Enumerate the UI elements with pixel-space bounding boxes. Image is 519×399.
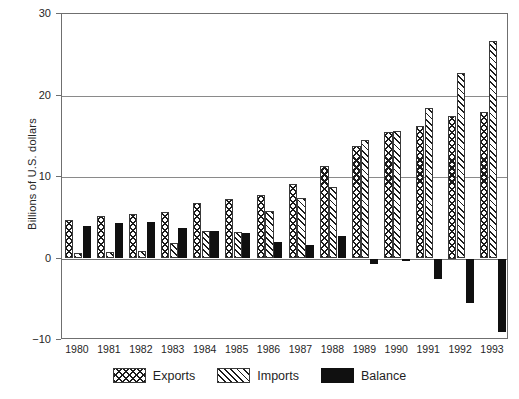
y-tick-label: 10 (39, 170, 51, 182)
legend-label: Imports (257, 369, 299, 383)
legend-label: Balance (361, 369, 406, 383)
y-tick-mark (56, 339, 61, 340)
bar-exports-1984 (193, 203, 201, 258)
bar-imports-1986 (265, 211, 273, 258)
gridline-10 (62, 177, 507, 178)
bar-exports-1981 (97, 216, 105, 258)
bar-imports-1990 (393, 131, 401, 259)
x-axis-ticks: 1980198119821983198419851986198719881989… (61, 341, 508, 359)
bar-balance-1992 (466, 259, 474, 304)
y-tick-label: 30 (39, 7, 51, 19)
bar-imports-1981 (106, 252, 114, 259)
bar-exports-1983 (161, 212, 169, 258)
bar-imports-1987 (297, 198, 305, 258)
y-tick-label: 0 (45, 252, 51, 264)
legend-swatch-exports-icon (113, 368, 146, 383)
bar-exports-1990 (384, 132, 392, 258)
legend-item-exports[interactable]: Exports (113, 368, 195, 383)
bar-imports-1993 (489, 41, 497, 259)
bar-exports-1980 (65, 220, 73, 258)
legend-swatch-balance-icon (321, 368, 354, 383)
bar-imports-1988 (329, 187, 337, 259)
bar-imports-1989 (361, 140, 369, 258)
bar-exports-1988 (320, 166, 328, 259)
bar-balance-1982 (147, 222, 155, 259)
x-tick-label-1985: 1985 (225, 343, 248, 355)
x-tick-label-1983: 1983 (161, 343, 184, 355)
bar-balance-1984 (210, 231, 218, 259)
bar-imports-1980 (74, 253, 82, 259)
bar-exports-1986 (257, 195, 265, 259)
bar-imports-1985 (234, 232, 242, 258)
x-tick-label-1988: 1988 (321, 343, 344, 355)
bar-exports-1989 (352, 146, 360, 258)
x-tick-label-1986: 1986 (257, 343, 280, 355)
legend-swatch-imports-icon (217, 368, 250, 383)
bar-imports-1991 (425, 108, 433, 259)
bar-balance-1990 (402, 259, 410, 261)
x-tick-label-1993: 1993 (480, 343, 503, 355)
y-tick-label: −10 (32, 333, 51, 345)
legend-label: Exports (153, 369, 195, 383)
bar-imports-1982 (138, 251, 146, 258)
y-axis-ticks: −100102030 (0, 0, 56, 399)
bar-balance-1985 (242, 233, 250, 258)
bar-balance-1986 (274, 242, 282, 258)
legend-item-balance[interactable]: Balance (321, 368, 406, 383)
x-tick-label-1991: 1991 (416, 343, 439, 355)
bar-balance-1991 (434, 259, 442, 279)
x-tick-label-1981: 1981 (97, 343, 120, 355)
bar-balance-1988 (338, 236, 346, 259)
x-tick-label-1989: 1989 (353, 343, 376, 355)
bar-exports-1992 (448, 116, 456, 259)
chart-container: Billions of U.S. dollars −100102030 1980… (0, 0, 519, 399)
bar-balance-1981 (115, 223, 123, 259)
bar-balance-1989 (370, 259, 378, 265)
x-tick-label-1992: 1992 (448, 343, 471, 355)
bar-exports-1985 (225, 199, 233, 258)
x-tick-label-1982: 1982 (129, 343, 152, 355)
bar-imports-1983 (170, 243, 178, 258)
x-tick-label-1984: 1984 (193, 343, 216, 355)
bar-balance-1987 (306, 245, 314, 259)
gridline-20 (62, 96, 507, 97)
x-tick-label-1987: 1987 (289, 343, 312, 355)
bar-balance-1983 (178, 228, 186, 259)
bar-imports-1984 (202, 231, 210, 259)
bar-exports-1982 (129, 214, 137, 258)
x-tick-label-1980: 1980 (65, 343, 88, 355)
y-tick-label: 20 (39, 89, 51, 101)
bar-balance-1980 (83, 226, 91, 259)
x-tick-label-1990: 1990 (385, 343, 408, 355)
bar-exports-1987 (289, 184, 297, 259)
bar-balance-1993 (498, 259, 506, 332)
bar-imports-1992 (457, 73, 465, 259)
plot-area (61, 13, 508, 339)
chart-legend: ExportsImportsBalance (0, 368, 519, 383)
bar-exports-1993 (480, 112, 488, 259)
legend-item-imports[interactable]: Imports (217, 368, 299, 383)
bar-exports-1991 (416, 126, 424, 258)
